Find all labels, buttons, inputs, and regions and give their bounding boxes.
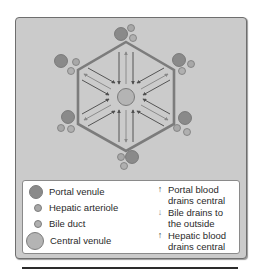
legend-label: Bile duct (49, 219, 85, 229)
portal-triad-lower-left (58, 111, 75, 133)
portal-triad-lower-right (174, 112, 192, 136)
bottom-rule (22, 267, 238, 269)
legend-flow-line: Bile drains to (168, 207, 223, 218)
legend-portal-venule: Portal venule (29, 185, 104, 199)
hepatic-arteriole-dot-icon (34, 204, 42, 212)
legend-label: Portal venule (49, 187, 104, 197)
arrow-up-icon: ↑ (155, 230, 165, 241)
central-venule-dot-icon (26, 232, 44, 250)
arrow-up-icon: ↑ (155, 184, 165, 195)
portal-triad-bottom (118, 151, 139, 170)
legend-flow-line: Hepatic blood (168, 230, 226, 241)
legend-label: Hepatic arteriole (49, 203, 118, 213)
legend-portal-flow: ↑ Portal blood drains central (155, 184, 238, 206)
legend-central-venule: Central venule (26, 232, 111, 250)
legend-label: Central venule (50, 236, 111, 246)
legend-box: Portal venule Hepatic arteriole Bile duc… (22, 180, 240, 254)
legend-flow-line: the outside (168, 218, 214, 229)
legend-hepatic-flow: ↑ Hepatic blood drains central (155, 230, 238, 252)
bile-duct-dot-icon (34, 220, 42, 228)
arrow-down-icon: ↓ (155, 207, 165, 218)
portal-triad-upper-right (173, 54, 195, 75)
portal-triad-upper-left (55, 55, 80, 75)
legend-bile-flow: ↓ Bile drains to the outside (155, 207, 238, 229)
legend-flow-line: drains central (168, 195, 225, 206)
central-venule (118, 89, 135, 106)
portal-venule-dot-icon (29, 185, 43, 199)
legend-flow-line: drains central (168, 241, 225, 252)
legend-bile-duct: Bile duct (34, 219, 85, 229)
legend-hepatic-arteriole: Hepatic arteriole (34, 203, 118, 213)
legend-flow-line: Portal blood (168, 184, 219, 195)
portal-triad-top (115, 25, 137, 42)
